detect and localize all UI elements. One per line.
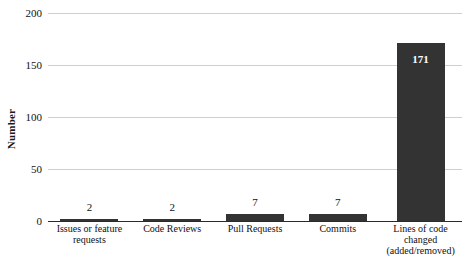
bar-slot: 2 [131,13,214,221]
bar-value-label: 2 [87,201,93,213]
x-axis-tick-label: Pull Requests [214,223,297,234]
bar[interactable] [397,43,445,221]
bar-value-label-inside: 171 [412,53,429,65]
bar-slot: 2 [48,13,131,221]
bar-slot: 171 [379,13,462,221]
bar[interactable] [143,219,201,221]
bar-slot: 7 [296,13,379,221]
bar-value-label: 7 [252,196,258,208]
bars-layer: 2277171 [48,13,462,221]
bar-chart: Number 050100150200 2277171 Issues or fe… [0,0,474,258]
y-axis-tick-label: 100 [2,111,42,123]
y-axis-tick-label: 200 [2,7,42,19]
y-axis-tick-label: 150 [2,59,42,71]
bar-value-label: 2 [169,201,175,213]
x-axis-tick-label: Issues or featurerequests [48,223,131,245]
x-axis-baseline [48,221,462,222]
x-axis-tick-label: Code Reviews [131,223,214,234]
y-axis-tick-labels: 050100150200 [0,13,42,221]
bar-value-label: 7 [335,196,341,208]
y-axis-tick-label: 0 [2,215,42,227]
x-axis-tick-label: Lines of codechanged(added/removed) [379,223,462,256]
bar[interactable] [226,214,284,221]
bar[interactable] [60,219,118,221]
x-axis-labels: Issues or featurerequestsCode ReviewsPul… [48,223,462,258]
x-axis-tick-label: Commits [296,223,379,234]
bar[interactable] [309,214,367,221]
y-axis-tick-label: 50 [2,163,42,175]
bar-slot: 7 [214,13,297,221]
